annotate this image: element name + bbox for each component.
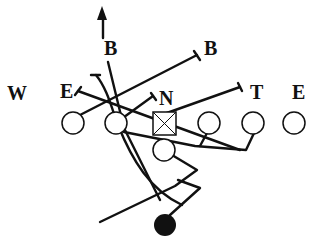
label-w: W [7,82,27,104]
offensive-line [62,112,305,135]
blocking-routes [75,51,255,222]
center-square [153,112,176,135]
quarterback [153,139,175,161]
tight-end [283,112,305,134]
play-diagram: B B W E N T E [0,0,314,240]
lineman-rg [198,112,220,134]
lineman-rt [242,112,264,134]
label-n: N [159,87,174,109]
label-b-right: B [204,37,217,59]
deep-arrow-route [97,6,107,38]
label-t: T [250,81,264,103]
running-back [154,214,176,236]
label-e-right: E [292,81,305,103]
arrowhead-icon [97,6,107,20]
label-b-left: B [104,37,117,59]
lineman-lg [105,112,127,134]
label-e-left: E [60,80,73,102]
lineman-lt [62,112,84,134]
